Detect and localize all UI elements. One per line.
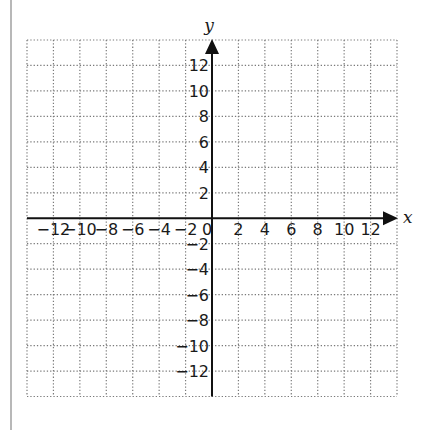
x-axis-name: x	[403, 207, 413, 227]
y-axis-name: y	[203, 15, 214, 35]
x-tick-label: 10	[334, 220, 354, 239]
x-tick-label: 8	[313, 220, 323, 239]
y-tick-label: −8	[185, 311, 209, 330]
y-tick-label: 12	[189, 56, 209, 75]
y-tick-label: −10	[175, 337, 209, 356]
x-tick-label: 12	[360, 220, 380, 239]
x-axis-arrow-icon	[383, 211, 398, 225]
x-tick-label: 4	[260, 220, 270, 239]
x-tick-label: 2	[233, 220, 243, 239]
x-tick-label: −8	[94, 220, 118, 239]
x-tick-label: −10	[63, 220, 97, 239]
x-tick-label: −4	[147, 220, 171, 239]
y-tick-label: −4	[185, 260, 209, 279]
y-tick-label: −2	[185, 235, 209, 254]
axes	[27, 39, 398, 397]
x-tick-label: −6	[121, 220, 145, 239]
y-tick-label: 4	[199, 158, 209, 177]
y-tick-label: 2	[199, 184, 209, 203]
y-tick-label: −6	[185, 286, 209, 305]
y-tick-label: 8	[199, 107, 209, 126]
tick-labels: −12−10−8−6−4−202468101212108642−2−4−6−8−…	[37, 15, 413, 381]
y-tick-label: 6	[199, 133, 209, 152]
x-tick-label: 6	[286, 220, 296, 239]
coordinate-plane: −12−10−8−6−4−202468101212108642−2−4−6−8−…	[0, 0, 435, 430]
y-tick-label: 10	[189, 82, 209, 101]
y-tick-label: −12	[175, 362, 209, 381]
y-axis-arrow-icon	[205, 39, 219, 54]
